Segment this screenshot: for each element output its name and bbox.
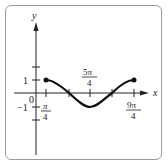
endpoint-right <box>132 78 137 83</box>
label-9pi4-num: 9π <box>127 100 137 110</box>
y-tick-label-1: 1 <box>23 75 28 86</box>
x-axis-label: x <box>152 87 158 98</box>
chart-svg: y x 1 −1 0 π 4 5π 4 9π 4 <box>0 0 168 165</box>
label-9pi4-den: 4 <box>131 111 136 121</box>
label-5pi4-den: 4 <box>87 78 92 88</box>
y-tick-label-neg1: −1 <box>17 102 28 113</box>
y-axis-arrow-icon <box>34 22 39 31</box>
y-axis-label: y <box>31 10 37 21</box>
x-axis-arrow-icon <box>140 91 149 96</box>
origin-label: 0 <box>29 94 34 105</box>
label-5pi4-num: 5π <box>83 67 93 77</box>
label-pi4-den: 4 <box>43 112 48 122</box>
label-pi4-num: π <box>43 101 48 111</box>
endpoint-left <box>44 78 49 83</box>
